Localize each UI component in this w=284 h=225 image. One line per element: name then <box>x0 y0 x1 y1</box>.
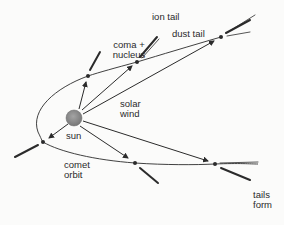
comet-dot-6 <box>213 162 217 166</box>
label-solar-wind: solar wind <box>120 99 141 119</box>
label-dust-tail: dust tail <box>172 29 205 39</box>
label-ion-tail: ion tail <box>152 12 179 22</box>
comet-dot-4 <box>41 140 45 144</box>
label-coma-nucleus: coma + nucleus <box>107 40 151 60</box>
label-tails-form: tails form <box>253 190 272 210</box>
label-sun: sun <box>66 131 81 141</box>
comet-dot-1 <box>86 74 90 78</box>
comet-dot-5 <box>133 161 137 165</box>
label-comet-orbit: comet orbit <box>64 160 90 180</box>
label-comet-line2: orbit <box>64 170 90 180</box>
label-coma-line2: nucleus <box>107 50 151 60</box>
comet-dot-2 <box>135 60 139 64</box>
comet-dot-3 <box>219 35 223 39</box>
label-tails-line2: form <box>253 200 272 210</box>
comet-diagram <box>0 0 284 225</box>
sun-icon <box>66 110 82 126</box>
label-solar-line2: wind <box>120 109 141 119</box>
